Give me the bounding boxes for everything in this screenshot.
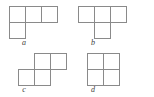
polyomino-cell xyxy=(87,53,104,70)
shape-a-label: a xyxy=(14,39,34,47)
polyomino-cell xyxy=(78,6,95,23)
polyomino-cell xyxy=(41,6,58,23)
polyomino-cell xyxy=(34,69,51,86)
polyomino-cell xyxy=(103,53,120,70)
shape-d-label: d xyxy=(83,86,103,94)
shape-c-label: c xyxy=(14,86,34,94)
polyomino-cell xyxy=(103,69,120,86)
polyomino-cell xyxy=(50,53,67,70)
polyomino-cell xyxy=(9,22,26,39)
polyomino-figure: a b c d xyxy=(0,0,154,97)
polyomino-cell xyxy=(9,6,26,23)
polyomino-cell xyxy=(87,69,104,86)
polyomino-cell xyxy=(94,22,111,39)
polyomino-cell xyxy=(25,6,42,23)
polyomino-cell xyxy=(18,69,35,86)
polyomino-cell xyxy=(34,53,51,70)
polyomino-cell xyxy=(94,6,111,23)
polyomino-cell xyxy=(110,6,127,23)
shape-b-label: b xyxy=(83,39,103,47)
